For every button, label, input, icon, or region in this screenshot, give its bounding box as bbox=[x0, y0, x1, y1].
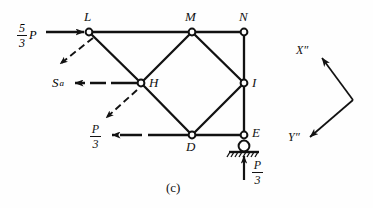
truss-joints bbox=[86, 29, 248, 139]
displacement-arrows bbox=[60, 38, 137, 118]
node-label-I: I bbox=[252, 76, 256, 89]
force-subscript-a: a bbox=[60, 78, 65, 88]
roller-support bbox=[227, 141, 259, 157]
axis-label-y-double-prime: Y″ bbox=[288, 131, 300, 143]
axis-x-double-prime-line bbox=[322, 58, 353, 100]
force-symbol-P: P bbox=[29, 28, 37, 43]
node-label-N: N bbox=[239, 10, 248, 23]
member-H-D bbox=[141, 83, 192, 135]
joint-I bbox=[241, 80, 248, 87]
fraction-denominator-3: 3 bbox=[92, 138, 100, 150]
force-label-applied-load-L: 5 3 P bbox=[17, 22, 37, 49]
displacement-arrow-L bbox=[60, 38, 93, 64]
fraction-numerator-P: P bbox=[91, 123, 100, 135]
member-D-I bbox=[192, 83, 244, 135]
node-label-M: M bbox=[185, 10, 196, 23]
fraction-numerator-P: P bbox=[253, 159, 262, 171]
joint-L bbox=[86, 29, 93, 36]
node-label-H: H bbox=[149, 76, 158, 89]
node-label-E: E bbox=[252, 126, 260, 139]
joint-M bbox=[189, 29, 196, 36]
fraction-numerator: 5 bbox=[19, 22, 25, 34]
member-M-I bbox=[192, 32, 244, 83]
truss-figure: L M N H I D E 5 3 P S a P 3 P 3 X″ Y″ (c… bbox=[0, 0, 373, 208]
figure-caption: (c) bbox=[166, 180, 180, 196]
joint-N bbox=[241, 29, 248, 36]
displacement-arrow-H bbox=[106, 90, 137, 118]
force-label-applied-load-D: P 3 bbox=[90, 123, 101, 150]
roller-circle bbox=[239, 141, 250, 152]
node-label-D: D bbox=[186, 140, 195, 153]
fraction-denominator-3: 3 bbox=[254, 174, 262, 186]
fraction-denominator: 3 bbox=[19, 37, 25, 49]
force-label-reaction-E: P 3 bbox=[252, 159, 263, 186]
fraction-five-thirds: 5 3 bbox=[17, 22, 27, 49]
joint-H bbox=[138, 80, 145, 87]
joint-D bbox=[189, 132, 196, 139]
axis-label-x-double-prime: X″ bbox=[296, 44, 308, 56]
truss-diagram-svg bbox=[0, 0, 373, 208]
member-L-H bbox=[89, 32, 141, 83]
local-axes bbox=[310, 58, 353, 137]
axis-y-double-prime-line bbox=[310, 100, 353, 137]
force-symbol-S: S bbox=[52, 75, 59, 91]
joint-E bbox=[241, 132, 248, 139]
force-label-reaction-Sa: S a bbox=[52, 75, 64, 91]
node-label-L: L bbox=[84, 10, 91, 23]
